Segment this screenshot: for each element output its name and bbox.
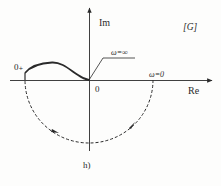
nyquist-dashed-semicircle (25, 80, 153, 143)
figure-caption: h) (83, 160, 91, 170)
imag-axis-label: Im (99, 17, 110, 28)
origin-label: 0 (95, 84, 100, 94)
omega-infinity-leader (89, 58, 135, 80)
nyquist-diagram: Im Re 0 [G] 0₊ ω=∞ ω=0 h) (0, 0, 221, 186)
omega-zero-label: ω=0 (149, 70, 164, 79)
nyquist-solid-curve (25, 62, 89, 80)
real-axis-label: Re (188, 85, 200, 96)
start-point-label: 0₊ (14, 62, 24, 72)
diagram-canvas: Im Re 0 [G] 0₊ ω=∞ ω=0 h) (0, 0, 221, 186)
arc-arrow-right-icon (129, 122, 135, 129)
omega-infinity-label: ω=∞ (111, 48, 128, 57)
arc-arrow-left-icon (51, 129, 59, 133)
plane-label: [G] (183, 22, 198, 32)
